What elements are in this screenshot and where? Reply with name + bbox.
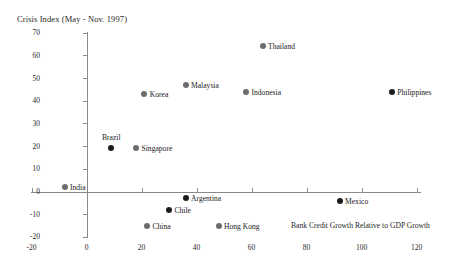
- y-tick-label: 10: [22, 164, 40, 173]
- data-point-label-india: India: [70, 182, 86, 191]
- data-point-label-thailand: Thailand: [268, 42, 295, 51]
- y-tick: [83, 169, 87, 170]
- y-tick-label: 20: [22, 142, 40, 151]
- y-axis-title: Crisis Index (May - Nov. 1997): [17, 14, 127, 24]
- scatter-chart: Crisis Index (May - Nov. 1997) Bank Cred…: [0, 0, 453, 269]
- data-point-label-china: China: [153, 221, 171, 230]
- x-tick-label: 100: [347, 243, 377, 252]
- data-point-indonesia[interactable]: [243, 89, 249, 95]
- data-point-label-philippines: Philippines: [397, 87, 431, 96]
- x-axis-line: [31, 192, 421, 193]
- y-tick: [83, 78, 87, 79]
- x-tick: [362, 188, 363, 192]
- y-tick-label: 0: [22, 187, 40, 196]
- y-tick: [83, 55, 87, 56]
- x-tick-label: 80: [292, 243, 322, 252]
- data-point-label-indonesia: Indonesia: [252, 87, 282, 96]
- x-tick-label: 40: [182, 243, 212, 252]
- x-tick-label: 20: [127, 243, 157, 252]
- data-point-label-chile: Chile: [175, 205, 191, 214]
- y-tick: [83, 146, 87, 147]
- y-tick-label: 30: [22, 119, 40, 128]
- x-tick-label: 0: [72, 243, 102, 252]
- x-tick: [252, 188, 253, 192]
- y-tick: [83, 214, 87, 215]
- x-tick-label: 120: [402, 243, 432, 252]
- y-tick-label: -20: [22, 232, 40, 241]
- data-point-malaysia[interactable]: [183, 82, 189, 88]
- y-tick: [83, 101, 87, 102]
- data-point-label-mexico: Mexico: [345, 196, 368, 205]
- data-point-india[interactable]: [62, 184, 68, 190]
- data-point-label-malaysia: Malaysia: [191, 80, 219, 89]
- y-axis-line: [87, 32, 88, 238]
- x-tick-label: -20: [17, 243, 47, 252]
- x-axis-title: Bank Credit Growth Relative to GDP Growt…: [291, 221, 430, 230]
- y-tick-label: 70: [22, 28, 40, 37]
- y-tick-label: 50: [22, 74, 40, 83]
- data-point-mexico[interactable]: [337, 198, 343, 204]
- x-tick: [417, 188, 418, 192]
- x-tick: [87, 188, 88, 192]
- x-tick: [197, 188, 198, 192]
- data-point-brazil[interactable]: [108, 145, 114, 151]
- y-tick-label: 40: [22, 96, 40, 105]
- y-tick: [83, 237, 87, 238]
- data-point-label-argentina: Argentina: [191, 194, 221, 203]
- data-point-chile[interactable]: [166, 207, 172, 213]
- x-tick: [142, 188, 143, 192]
- data-point-philippines[interactable]: [389, 89, 395, 95]
- y-tick: [83, 33, 87, 34]
- data-point-label-brazil: Brazil: [102, 133, 121, 142]
- data-point-argentina[interactable]: [183, 195, 189, 201]
- y-tick-label: -10: [22, 210, 40, 219]
- data-point-label-hong-kong: Hong Kong: [224, 221, 260, 230]
- data-point-label-singapore: Singapore: [142, 144, 173, 153]
- y-tick: [83, 123, 87, 124]
- data-point-singapore[interactable]: [133, 145, 139, 151]
- x-tick: [307, 188, 308, 192]
- y-tick-label: 60: [22, 51, 40, 60]
- data-point-hong-kong[interactable]: [216, 223, 222, 229]
- data-point-china[interactable]: [144, 223, 150, 229]
- x-tick-label: 60: [237, 243, 267, 252]
- data-point-korea[interactable]: [141, 91, 147, 97]
- data-point-label-korea: Korea: [150, 89, 169, 98]
- data-point-thailand[interactable]: [260, 43, 266, 49]
